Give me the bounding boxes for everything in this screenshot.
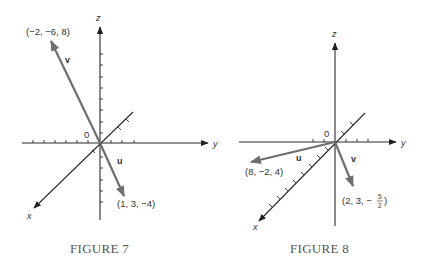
svg-text:2: 2 (378, 202, 382, 209)
vector-v (51, 41, 100, 143)
svg-text:5: 5 (378, 193, 382, 200)
vector-u-endpoint-label: (8, −2, 4) (245, 166, 283, 177)
vector-v-label: v (65, 55, 70, 65)
vector-v-endpoint-label: (−2, −6, 8) (26, 26, 70, 37)
x-axis-label: x (252, 222, 258, 232)
figures-canvas: y z x 0 v (−2, (0, 0, 423, 260)
figure-7-caption: FIGURE 7 (70, 241, 129, 256)
vector-u (251, 142, 335, 162)
vector-v-endpoint-label: (2, 3, − 5 2 ) (342, 193, 387, 209)
vector-v-label: v (351, 154, 356, 164)
svg-text:): ) (384, 195, 387, 206)
y-axis-label: y (212, 139, 218, 149)
vector-u-label: u (117, 156, 123, 166)
figure-7: y z x 0 v (−2, (22, 13, 218, 256)
vector-u-endpoint-label: (1, 3, −4) (117, 198, 155, 209)
figure-8: y z x 0 u (8, −2, 4) v (2, 3, − 5 (239, 29, 406, 256)
vector-u-label: u (296, 153, 302, 163)
z-axis-label: z (95, 13, 101, 23)
y-axis-label: y (400, 138, 406, 148)
z-axis-label: z (331, 29, 337, 39)
origin-label: 0 (324, 128, 329, 139)
x-axis-label: x (26, 211, 32, 221)
x-axis-ticks (269, 122, 353, 207)
vector-v (335, 142, 353, 186)
figure-8-caption: FIGURE 8 (290, 241, 349, 256)
vector-u (100, 143, 124, 196)
origin-label: 0 (84, 129, 89, 140)
svg-text:(2, 3, −: (2, 3, − (342, 195, 372, 206)
